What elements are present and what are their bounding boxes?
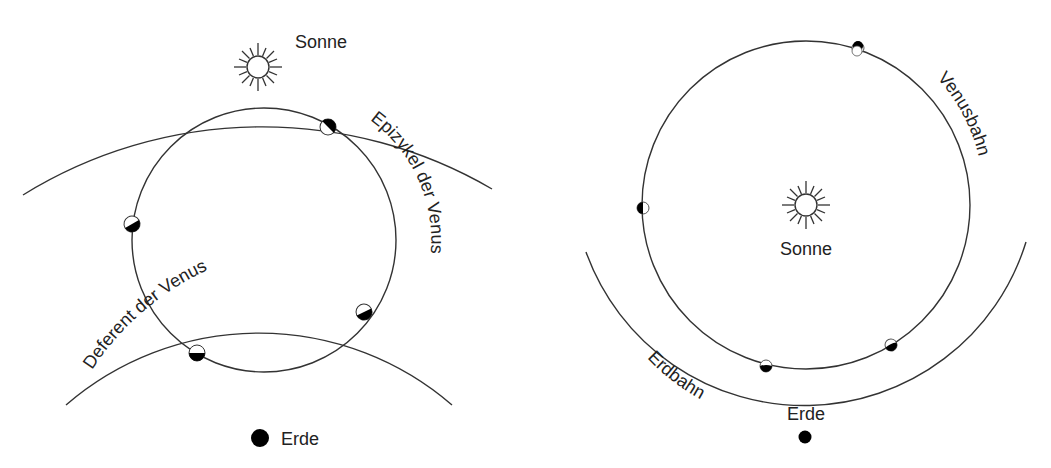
venus-phase-bottom-right (883, 337, 899, 353)
venus-phases-diagram: Sonne Epizykel der Venus Deferent der Ve… (0, 0, 1051, 468)
earth-orbit-arc (586, 242, 1026, 406)
left-panel: Sonne Epizykel der Venus Deferent der Ve… (23, 32, 492, 449)
earth-orbit-label: Erdbahn (644, 347, 709, 403)
venus-phase-top (852, 41, 864, 56)
earth-icon (251, 429, 269, 447)
venus-orbit-label: Venusbahn (934, 67, 994, 157)
sun-icon-right (782, 181, 830, 229)
right-panel: Sonne Venusbahn Erdbahn (586, 41, 1026, 444)
venus-phase-upper-right (317, 116, 340, 139)
sun-label: Sonne (295, 32, 347, 52)
sun-icon (234, 43, 282, 91)
venus-phase-bottom-left (760, 360, 772, 372)
deferent-arc (66, 333, 452, 405)
venus-phase-left-right-panel (637, 202, 649, 214)
earth-label: Erde (281, 429, 319, 449)
venus-phase-left (121, 213, 143, 235)
epicycle-circle (132, 108, 396, 372)
venus-phase-bottom (189, 345, 205, 361)
earth-label-right: Erde (787, 404, 825, 424)
earth-icon-right (799, 431, 812, 444)
sun-label-right: Sonne (780, 239, 832, 259)
venus-phase-lower-right (353, 301, 374, 322)
epicycle-label: Epizykel der Venus (368, 107, 448, 254)
